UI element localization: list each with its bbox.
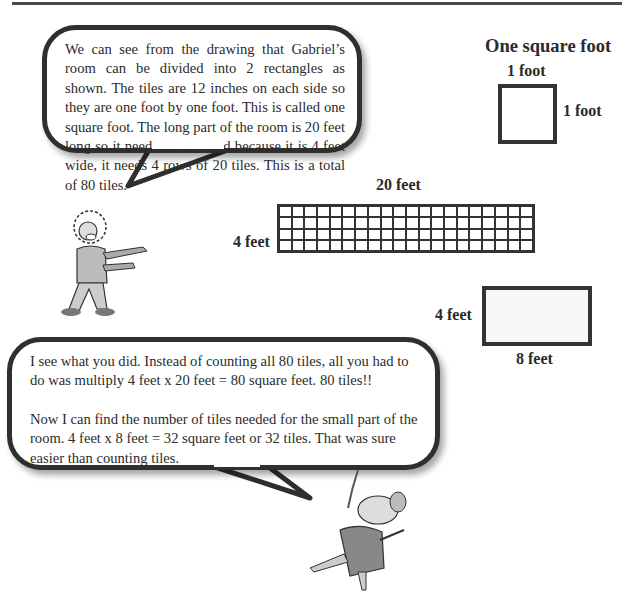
tile-cell	[331, 241, 342, 250]
tile-cell	[343, 230, 354, 239]
tile-cell	[496, 241, 507, 250]
tile-cell	[458, 207, 469, 216]
tile-cell	[382, 207, 393, 216]
top-rule	[12, 2, 622, 5]
tile-cell	[496, 230, 507, 239]
tile-cell	[432, 230, 443, 239]
tile-cell	[458, 218, 469, 227]
tile-cell	[369, 241, 380, 250]
tile-cell	[382, 218, 393, 227]
tile-cell	[369, 207, 380, 216]
tile-cell	[394, 218, 405, 227]
tile-cell	[483, 207, 494, 216]
square-foot-title: One square foot	[485, 36, 611, 57]
tile-cell	[382, 241, 393, 250]
tile-cell	[369, 218, 380, 227]
tile-cell	[483, 218, 494, 227]
tile-cell	[280, 230, 291, 239]
tile-cell	[521, 241, 532, 250]
tile-cell	[394, 230, 405, 239]
large-rect-side-label: 4 feet	[233, 233, 270, 251]
square-foot-side-label: 1 foot	[563, 102, 602, 120]
tile-cell	[394, 207, 405, 216]
small-rectangle	[482, 286, 592, 346]
tile-cell	[420, 230, 431, 239]
tile-cell	[407, 241, 418, 250]
tile-cell	[280, 218, 291, 227]
tile-cell	[470, 230, 481, 239]
tile-cell	[369, 230, 380, 239]
tile-cell	[521, 230, 532, 239]
old-man-cartoon-icon	[55, 205, 165, 320]
bubble-top-text: We can see from the drawing that Gabriel…	[65, 40, 345, 195]
tile-cell	[445, 241, 456, 250]
tile-cell	[356, 218, 367, 227]
tile-cell	[470, 218, 481, 227]
tile-cell	[280, 207, 291, 216]
tile-cell	[293, 230, 304, 239]
tile-cell	[509, 218, 520, 227]
bubble-bottom-paragraph-2: Now I can find the number of tiles neede…	[30, 410, 423, 468]
small-rect-bottom-label: 8 feet	[516, 350, 553, 368]
tile-cell	[483, 241, 494, 250]
tile-cell	[458, 230, 469, 239]
tile-cell	[293, 241, 304, 250]
tile-cell	[509, 230, 520, 239]
large-rect-top-label: 20 feet	[376, 176, 421, 194]
tile-cell	[318, 241, 329, 250]
tile-cell	[470, 241, 481, 250]
tile-cell	[432, 207, 443, 216]
tile-cell	[521, 218, 532, 227]
tile-cell	[305, 218, 316, 227]
tile-cell	[407, 218, 418, 227]
tile-cell	[509, 241, 520, 250]
tile-cell	[343, 218, 354, 227]
tile-cell	[305, 207, 316, 216]
tile-cell	[420, 218, 431, 227]
tile-cell	[420, 207, 431, 216]
tile-cell	[382, 230, 393, 239]
mouse-cartoon-icon	[300, 468, 420, 591]
tile-cell	[445, 230, 456, 239]
tile-cell	[483, 230, 494, 239]
bubble-bottom-paragraph-1: I see what you did. Instead of counting …	[30, 352, 423, 391]
one-square-foot-square	[498, 84, 557, 144]
tile-cell	[407, 230, 418, 239]
tile-cell	[318, 207, 329, 216]
tile-cell	[420, 241, 431, 250]
tile-cell	[445, 207, 456, 216]
tile-cell	[356, 207, 367, 216]
tile-cell	[305, 241, 316, 250]
tile-cell	[496, 207, 507, 216]
tile-cell	[356, 230, 367, 239]
tile-cell	[318, 230, 329, 239]
tile-cell	[394, 241, 405, 250]
tile-cell	[496, 218, 507, 227]
tile-cell	[458, 241, 469, 250]
tile-cell	[331, 207, 342, 216]
tile-cell	[432, 218, 443, 227]
tile-cell	[343, 207, 354, 216]
tile-cell	[509, 207, 520, 216]
tile-cell	[407, 207, 418, 216]
tile-cell	[280, 241, 291, 250]
small-rect-side-label: 4 feet	[435, 306, 472, 324]
large-rectangle-tile-grid	[277, 204, 535, 253]
tile-cell	[293, 218, 304, 227]
tile-cell	[432, 241, 443, 250]
tile-cell	[343, 241, 354, 250]
tile-cell	[445, 218, 456, 227]
square-foot-top-label: 1 foot	[507, 62, 546, 80]
tile-cell	[331, 218, 342, 227]
speech-bubble-top: We can see from the drawing that Gabriel…	[42, 25, 362, 153]
tile-cell	[331, 230, 342, 239]
tile-cell	[521, 207, 532, 216]
tile-cell	[356, 241, 367, 250]
tile-cell	[318, 218, 329, 227]
tile-cell	[470, 207, 481, 216]
tile-cell	[293, 207, 304, 216]
speech-bubble-bottom: I see what you did. Instead of counting …	[7, 337, 440, 470]
tile-cell	[305, 230, 316, 239]
